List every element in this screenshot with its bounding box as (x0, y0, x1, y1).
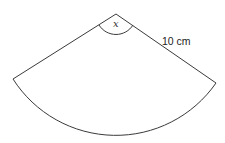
angle-label: x (113, 18, 119, 29)
radius-length-label: 10 cm (162, 35, 191, 47)
sector-diagram: x 10 cm (0, 0, 225, 143)
sector-shape (13, 14, 216, 135)
